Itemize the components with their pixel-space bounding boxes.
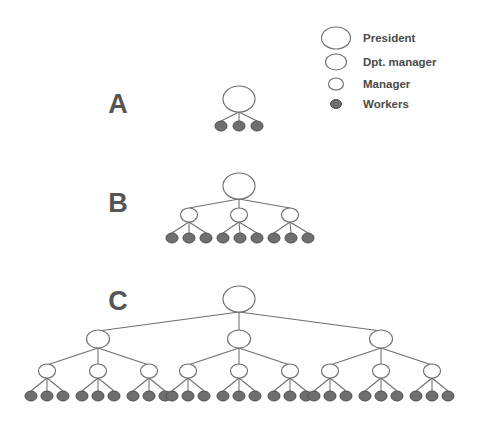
edge-link (172, 222, 189, 233)
manager-node (39, 364, 56, 378)
legend-symbol-dpt-manager-icon (326, 54, 347, 70)
worker-node (127, 391, 139, 401)
legend-label-president: President (363, 32, 416, 44)
edge-link (189, 222, 206, 233)
edge-link (98, 348, 149, 365)
edge-link (416, 378, 432, 391)
manager-node (282, 208, 299, 222)
hierarchy-figure: ABC PresidentDpt. managerManagerWorkers (0, 0, 481, 425)
legend-label-workers: Workers (363, 98, 409, 110)
structure-label-a: A (108, 89, 128, 119)
structure-label-c: C (108, 286, 128, 316)
worker-node (359, 391, 371, 401)
worker-node (251, 121, 263, 131)
manager-node (373, 364, 390, 378)
edge-link (223, 378, 239, 391)
manager-node (181, 208, 198, 222)
worker-node (324, 391, 336, 401)
legend-label-dpt-manager: Dpt. manager (363, 56, 437, 68)
edge-link (290, 222, 308, 233)
edge-link (47, 378, 63, 391)
legend-symbol-president-icon (322, 27, 351, 49)
manager-node (141, 364, 158, 378)
worker-node (442, 391, 454, 401)
president-node (223, 173, 255, 199)
structures-group: ABC (25, 86, 454, 401)
legend-item-president: President (322, 27, 416, 49)
edge-link (239, 112, 257, 121)
legend-item-manager: Manager (329, 78, 411, 90)
worker-node (200, 233, 212, 243)
worker-node (285, 233, 297, 243)
worker-node (217, 391, 229, 401)
worker-node (233, 121, 245, 131)
edge-link (188, 348, 239, 365)
edge-link (239, 222, 240, 233)
worker-node (268, 233, 280, 243)
manager-node (322, 364, 339, 378)
worker-node (249, 391, 261, 401)
edge-link (189, 199, 239, 208)
edge-link (290, 378, 306, 391)
worker-node (284, 391, 296, 401)
edge-link (223, 222, 239, 233)
worker-node (234, 233, 246, 243)
edge-link (432, 378, 448, 391)
worker-node (308, 391, 320, 401)
structure-a: A (108, 86, 263, 131)
worker-node (410, 391, 422, 401)
edge-link (149, 378, 165, 391)
structure-b: B (108, 173, 314, 243)
legend-symbol-workers-icon (331, 100, 342, 109)
president-node (223, 86, 255, 112)
edge-link (314, 378, 330, 391)
dpt-manager-node (228, 330, 251, 348)
worker-node (233, 391, 245, 401)
edge-link (221, 112, 239, 121)
manager-node (231, 364, 248, 378)
edge-link (133, 378, 149, 391)
worker-node (143, 391, 155, 401)
worker-node (375, 391, 387, 401)
dpt-manager-node (370, 330, 393, 348)
edge-link (47, 348, 98, 365)
edge-link (239, 199, 290, 208)
edge-link (98, 378, 114, 391)
manager-node (180, 364, 197, 378)
edge-link (239, 222, 257, 233)
node-type-legend: PresidentDpt. managerManagerWorkers (322, 27, 438, 110)
edge-link (239, 312, 381, 331)
structure-label-b: B (108, 188, 128, 218)
edge-link (82, 378, 98, 391)
manager-node (231, 208, 248, 222)
worker-node (76, 391, 88, 401)
worker-node (108, 391, 120, 401)
worker-node (166, 391, 178, 401)
president-node (223, 286, 255, 312)
worker-node (426, 391, 438, 401)
worker-node (302, 233, 314, 243)
edge-link (330, 378, 346, 391)
edge-link (274, 378, 290, 391)
worker-node (57, 391, 69, 401)
worker-node (251, 233, 263, 243)
edge-link (365, 378, 381, 391)
legend-label-manager: Manager (363, 78, 411, 90)
manager-node (90, 364, 107, 378)
legend-item-dpt-manager: Dpt. manager (326, 54, 438, 70)
dpt-manager-node (87, 330, 110, 348)
edge-link (381, 348, 432, 365)
worker-node (166, 233, 178, 243)
edge-link (188, 378, 204, 391)
edge-link (330, 348, 381, 365)
edge-link (381, 378, 397, 391)
manager-node (424, 364, 441, 378)
worker-node (92, 391, 104, 401)
legend-item-workers: Workers (331, 98, 409, 110)
worker-node (182, 391, 194, 401)
worker-node (217, 233, 229, 243)
legend-symbol-manager-icon (329, 78, 344, 90)
worker-node (215, 121, 227, 131)
hierarchy-diagram-canvas: ABC PresidentDpt. managerManagerWorkers (0, 0, 481, 425)
edge-link (239, 378, 255, 391)
